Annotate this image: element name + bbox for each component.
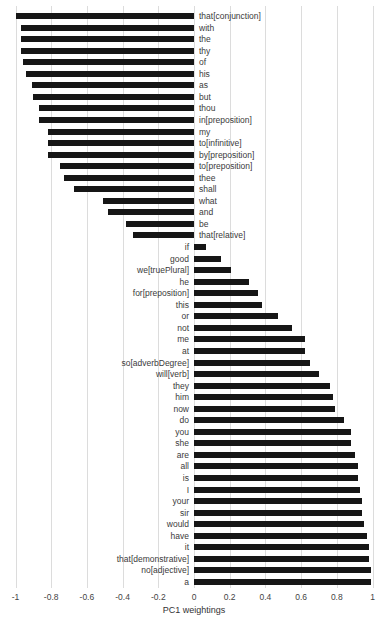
category-label: be	[199, 219, 208, 229]
category-label: by[preposition]	[199, 150, 254, 160]
bar	[194, 279, 249, 285]
bar	[194, 579, 371, 585]
category-label: a	[184, 577, 189, 587]
category-label: me	[177, 334, 189, 344]
x-tick-label: 0.4	[259, 592, 271, 602]
category-label: will[verb]	[156, 369, 189, 379]
category-label: this	[176, 300, 189, 310]
category-label: all	[180, 461, 189, 471]
category-label: that[demonstrative]	[117, 554, 189, 564]
bar	[194, 521, 364, 527]
bar	[48, 152, 194, 158]
category-label: the	[199, 34, 211, 44]
bar	[39, 105, 194, 111]
category-label: your	[172, 496, 189, 506]
bar	[33, 94, 194, 100]
category-label: or	[181, 311, 189, 321]
category-label: his	[199, 69, 210, 79]
bar	[103, 198, 194, 204]
category-label: is	[183, 473, 189, 483]
bar	[194, 325, 292, 331]
bar	[194, 567, 371, 573]
category-label: we[truePlural]	[137, 265, 189, 275]
bar	[39, 117, 194, 123]
category-label: thy	[199, 46, 210, 56]
category-label: do	[180, 415, 189, 425]
x-tick-label: -1	[12, 592, 20, 602]
bar	[194, 256, 221, 262]
bar	[194, 290, 258, 296]
bar	[21, 25, 194, 31]
bar	[194, 475, 358, 481]
category-label: of	[199, 57, 206, 67]
category-label: now	[173, 404, 189, 414]
category-label: I	[187, 485, 189, 495]
bar	[74, 186, 194, 192]
category-label: that[conjunction]	[199, 11, 261, 21]
category-label: but	[199, 92, 211, 102]
category-label: have	[171, 531, 189, 541]
bar	[194, 244, 206, 250]
bar	[194, 348, 305, 354]
category-label: would	[167, 519, 189, 529]
bar	[194, 313, 278, 319]
x-tick-label: -0.6	[80, 592, 95, 602]
category-label: in[preposition]	[199, 115, 252, 125]
category-label: and	[199, 207, 213, 217]
category-label: my	[199, 127, 210, 137]
bar	[133, 232, 194, 238]
x-tick-label: 0.6	[295, 592, 307, 602]
bar	[194, 302, 262, 308]
category-label: you	[175, 427, 189, 437]
category-label: good	[170, 254, 189, 264]
bar	[194, 452, 355, 458]
bar	[64, 175, 194, 181]
bar	[194, 487, 360, 493]
category-label: she	[175, 438, 189, 448]
bar	[194, 360, 310, 366]
category-label: if	[185, 242, 189, 252]
category-label: they	[173, 381, 189, 391]
category-label: that[relative]	[199, 230, 245, 240]
bar	[48, 129, 194, 135]
bar	[194, 440, 351, 446]
bar	[26, 71, 194, 77]
bar	[108, 209, 194, 215]
bar	[194, 498, 362, 504]
bar	[194, 533, 367, 539]
category-label: it	[185, 542, 189, 552]
category-label: at	[182, 346, 189, 356]
category-label: he	[180, 277, 189, 287]
bar	[194, 336, 305, 342]
bar	[194, 463, 358, 469]
bar	[194, 394, 333, 400]
bar	[48, 140, 194, 146]
bar	[16, 13, 195, 19]
bar	[194, 429, 351, 435]
x-tick-label: -0.4	[115, 592, 130, 602]
category-label: to[infinitive]	[199, 138, 242, 148]
category-label: not	[177, 323, 189, 333]
bar	[194, 267, 231, 273]
bar	[23, 59, 194, 65]
category-label: with	[199, 23, 214, 33]
x-tick-label: 0	[192, 592, 197, 602]
category-label: to[preposition]	[199, 161, 252, 171]
x-tick-label: -0.2	[151, 592, 166, 602]
bar	[126, 221, 194, 227]
x-tick-label: 0.2	[224, 592, 236, 602]
bar	[194, 383, 330, 389]
gridline	[16, 6, 17, 588]
bar	[194, 417, 344, 423]
bar	[21, 48, 194, 54]
bar	[194, 406, 335, 412]
category-label: him	[175, 392, 189, 402]
category-label: thee	[199, 173, 216, 183]
category-label: as	[199, 80, 208, 90]
bar	[32, 82, 194, 88]
category-label: sir	[180, 508, 189, 518]
x-axis-title: PC1 weightings	[163, 605, 226, 615]
category-label: for[preposition]	[133, 288, 189, 298]
bar	[21, 36, 194, 42]
bar	[194, 510, 362, 516]
